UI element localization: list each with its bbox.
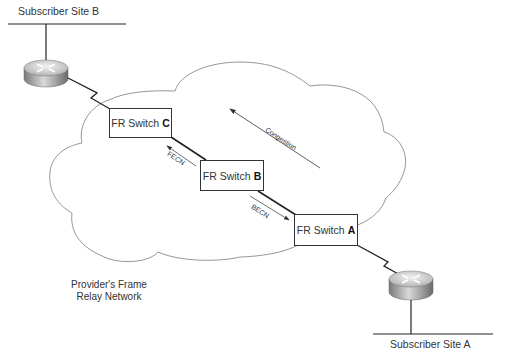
router-a-icon (389, 271, 433, 300)
network-label: Provider's Frame Relay Network (54, 279, 164, 303)
site-a-label: Subscriber Site A (390, 338, 471, 350)
fr-switch-a-letter: A (348, 224, 356, 236)
fr-switch-a-prefix: FR Switch (297, 224, 345, 236)
fr-switch-c-prefix: FR Switch (111, 117, 159, 129)
fr-switch-b-prefix: FR Switch (203, 170, 251, 182)
site-b-label: Subscriber Site B (18, 5, 99, 17)
fr-switch-a[interactable]: FR SwitchA (294, 214, 358, 246)
serial-link-a (357, 245, 402, 276)
fr-switch-c-letter: C (162, 117, 170, 129)
fr-switch-b[interactable]: FR SwitchB (200, 160, 264, 191)
network-label-line1: Provider's Frame (54, 279, 164, 291)
fr-switch-c[interactable]: FR SwitchC (109, 108, 172, 138)
network-label-line2: Relay Network (54, 291, 164, 303)
router-b-icon (24, 60, 68, 87)
serial-link-b (68, 78, 110, 109)
fr-switch-b-letter: B (254, 170, 262, 182)
